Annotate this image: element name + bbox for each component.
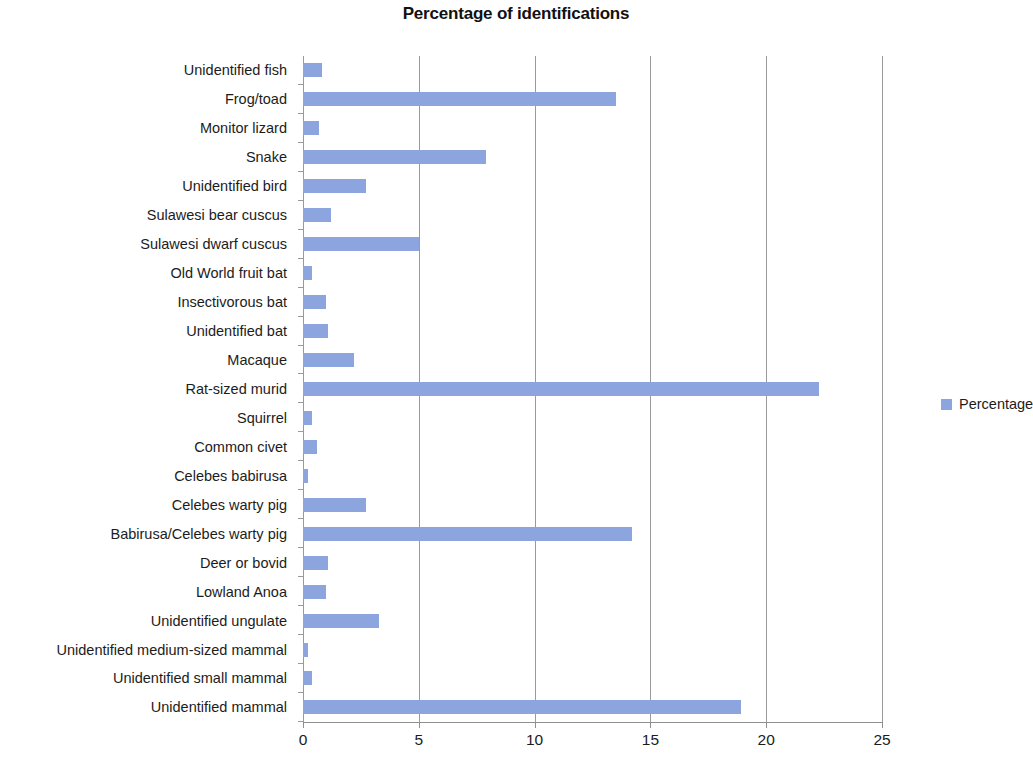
bar-row <box>303 519 882 548</box>
category-label: Unidentified mammal <box>0 693 295 722</box>
x-tick-label-0: 0 <box>273 731 333 749</box>
category-label: Insectivorous bat <box>0 288 295 317</box>
bar-row <box>303 172 882 201</box>
bar-row <box>303 664 882 693</box>
y-axis-category-labels: Unidentified fishFrog/toadMonitor lizard… <box>0 56 295 722</box>
x-tick-mark-5 <box>419 722 420 728</box>
category-label: Sulawesi dwarf cuscus <box>0 230 295 259</box>
x-tick-mark-25 <box>882 722 883 728</box>
category-label: Snake <box>0 143 295 172</box>
x-tick-mark-20 <box>766 722 767 728</box>
x-tick-label-15: 15 <box>620 731 680 749</box>
category-label: Lowland Anoa <box>0 577 295 606</box>
category-label: Babirusa/Celebes warty pig <box>0 519 295 548</box>
category-label: Old World fruit bat <box>0 259 295 288</box>
category-label: Macaque <box>0 346 295 375</box>
category-label: Unidentified bird <box>0 172 295 201</box>
bar <box>303 353 354 367</box>
category-label: Frog/toad <box>0 85 295 114</box>
bar <box>303 324 328 338</box>
bar <box>303 556 328 570</box>
x-tick-mark-10 <box>535 722 536 728</box>
bar <box>303 643 308 657</box>
bar-rows <box>303 56 882 722</box>
category-label: Rat-sized murid <box>0 374 295 403</box>
bar <box>303 498 366 512</box>
x-tick-mark-15 <box>650 722 651 728</box>
bar-row <box>303 490 882 519</box>
bar <box>303 92 616 106</box>
bar-row <box>303 635 882 664</box>
bar <box>303 208 331 222</box>
bar <box>303 382 819 396</box>
legend-label-percentage: Percentage <box>959 396 1033 412</box>
legend-swatch-percentage <box>941 399 952 410</box>
category-label: Unidentified small mammal <box>0 664 295 693</box>
bar-row <box>303 201 882 230</box>
category-label: Sulawesi bear cuscus <box>0 201 295 230</box>
bar <box>303 150 486 164</box>
bar <box>303 700 741 714</box>
category-label: Unidentified fish <box>0 56 295 85</box>
bar-row <box>303 461 882 490</box>
bar-row <box>303 230 882 259</box>
category-label: Deer or bovid <box>0 548 295 577</box>
bar <box>303 179 366 193</box>
bar <box>303 121 319 135</box>
bar <box>303 671 312 685</box>
category-label: Unidentified ungulate <box>0 606 295 635</box>
bar-row <box>303 114 882 143</box>
bar-row <box>303 432 882 461</box>
bar <box>303 295 326 309</box>
gridline-25 <box>882 56 883 722</box>
chart-title: Percentage of identifications <box>0 4 1032 24</box>
bar-row <box>303 548 882 577</box>
x-tick-label-10: 10 <box>505 731 565 749</box>
bar-row <box>303 317 882 346</box>
bar <box>303 585 326 599</box>
bar-row <box>303 288 882 317</box>
bar <box>303 411 312 425</box>
bar-row <box>303 577 882 606</box>
category-label: Unidentified medium-sized mammal <box>0 635 295 664</box>
bar-row <box>303 374 882 403</box>
category-label: Squirrel <box>0 403 295 432</box>
category-label: Unidentified bat <box>0 317 295 346</box>
category-label: Celebes warty pig <box>0 490 295 519</box>
x-tick-label-5: 5 <box>389 731 449 749</box>
plot-area <box>303 56 882 722</box>
x-tick-label-20: 20 <box>736 731 796 749</box>
bar <box>303 237 419 251</box>
bar-row <box>303 693 882 722</box>
bar <box>303 614 379 628</box>
bar-row <box>303 85 882 114</box>
bar-row <box>303 56 882 85</box>
x-axis-line <box>303 722 882 723</box>
category-label: Celebes babirusa <box>0 461 295 490</box>
bar-row <box>303 259 882 288</box>
bar <box>303 63 322 77</box>
bar <box>303 266 312 280</box>
bar-row <box>303 403 882 432</box>
bar-row <box>303 143 882 172</box>
bar <box>303 469 308 483</box>
category-label: Monitor lizard <box>0 114 295 143</box>
bar <box>303 440 317 454</box>
x-tick-label-25: 25 <box>852 731 912 749</box>
chart-legend: Percentage <box>941 396 1033 412</box>
x-tick-mark-0 <box>303 722 304 728</box>
bar <box>303 527 632 541</box>
bar-row <box>303 346 882 375</box>
bar-row <box>303 606 882 635</box>
category-label: Common civet <box>0 432 295 461</box>
